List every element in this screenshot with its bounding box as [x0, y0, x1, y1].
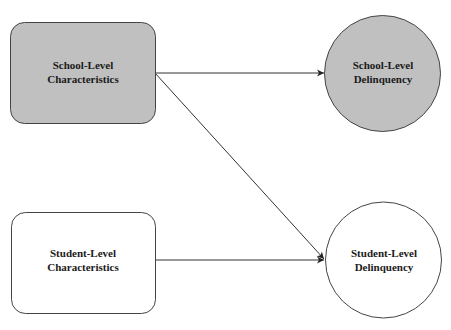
school-delinquency-label-line-2: Delinquency	[354, 73, 413, 85]
node-student-level-delinquency: Student-Level Delinquency	[326, 202, 442, 318]
node-student-level-characteristics: Student-Level Characteristics	[12, 213, 156, 314]
student-delinquency-circle	[326, 202, 442, 318]
edge-school-chars-to-student-delinquency	[155, 73, 324, 259]
school-delinquency-label-line-1: School-Level	[353, 59, 414, 71]
student-characteristics-label-line-1: Student-Level	[50, 247, 116, 259]
node-school-level-characteristics: School-Level Characteristics	[11, 23, 156, 124]
school-characteristics-label-line-2: Characteristics	[47, 73, 119, 85]
student-characteristics-label-line-2: Characteristics	[47, 261, 119, 273]
node-school-level-delinquency: School-Level Delinquency	[325, 16, 441, 132]
school-characteristics-label-line-1: School-Level	[53, 59, 114, 71]
student-delinquency-label-line-1: Student-Level	[351, 247, 417, 259]
path-diagram: School-Level Characteristics School-Leve…	[0, 0, 451, 330]
student-delinquency-label-line-2: Delinquency	[355, 261, 414, 273]
